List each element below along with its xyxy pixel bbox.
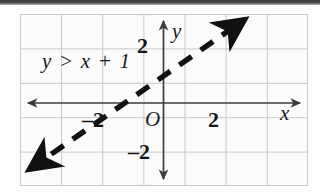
coordinate-plane-svg: x y 2 –2 –2 2 O y > x + 1 — [20, 14, 308, 186]
x-tick-label-2: 2 — [208, 107, 219, 132]
graph-figure: x y 2 –2 –2 2 O y > x + 1 — [0, 0, 320, 194]
x-axis-label: x — [279, 101, 290, 125]
x-tick-label-neg2: –2 — [81, 107, 104, 132]
scan-artifact-band — [0, 0, 320, 5]
origin-label: O — [145, 107, 160, 131]
plot-area: x y 2 –2 –2 2 O y > x + 1 — [20, 14, 308, 186]
y-axis-label: y — [170, 19, 182, 43]
y-tick-label-neg2: –2 — [127, 139, 150, 164]
inequality-label: y > x + 1 — [40, 49, 131, 73]
y-tick-label-2: 2 — [137, 33, 148, 58]
